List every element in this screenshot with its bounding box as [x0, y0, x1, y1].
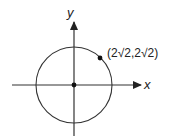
point-label: (2√2,2√2) [107, 46, 158, 60]
y-axis-label: y [66, 5, 75, 20]
x-axis-label: x [143, 77, 151, 92]
origin-point [72, 83, 77, 88]
diagram-canvas: y x (2√2,2√2) [0, 0, 172, 140]
point-marker [98, 56, 103, 61]
